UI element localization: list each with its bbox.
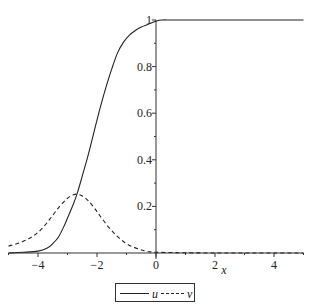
- y-tick-label: 0.2: [137, 199, 152, 213]
- x-tick-label: −4: [32, 258, 45, 272]
- x-tick-label: 2: [212, 258, 218, 272]
- y-tick-label: 0.4: [137, 153, 152, 167]
- legend-label-v: v: [187, 287, 193, 301]
- y-tick-label: 0.6: [137, 106, 152, 120]
- x-axis-label: x: [220, 263, 227, 277]
- y-tick-label: 0.8: [137, 60, 152, 74]
- y-axis: 0.20.40.60.81: [137, 13, 156, 259]
- legend: u v: [115, 283, 195, 302]
- x-tick-label: 0: [153, 258, 159, 272]
- x-tick-label: −2: [91, 258, 104, 272]
- line-chart: −4−2024 0.20.40.60.81 x: [0, 0, 309, 308]
- legend-label-u: u: [152, 287, 158, 301]
- x-tick-label: 4: [271, 258, 277, 272]
